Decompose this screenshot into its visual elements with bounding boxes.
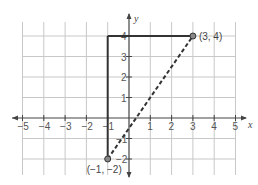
y-axis-down-arrow-icon xyxy=(127,172,132,178)
x-axis-right-arrow-icon xyxy=(241,116,247,121)
coordinate-plane: xy−5−4−3−2−1123454321−1−2 (3, 4)(−1, −2) xyxy=(0,0,258,185)
x-tick-label: −2 xyxy=(81,121,93,132)
x-tick-label: 2 xyxy=(169,121,175,132)
x-tick-label: 1 xyxy=(147,121,153,132)
x-tick-label: 3 xyxy=(190,121,196,132)
point-label: (−1, −2) xyxy=(87,164,122,175)
y-tick-label: −1 xyxy=(116,134,128,145)
point-marker xyxy=(105,156,111,162)
x-axis-label: x xyxy=(247,119,253,130)
x-tick-label: 4 xyxy=(211,121,217,132)
y-tick-label: 3 xyxy=(121,52,127,63)
y-axis-up-arrow-icon xyxy=(127,13,132,19)
y-tick-label: 1 xyxy=(121,93,127,104)
point-label: (3, 4) xyxy=(199,31,222,42)
y-tick-label: 2 xyxy=(121,72,127,83)
y-axis-label: y xyxy=(133,13,139,24)
x-tick-label: −3 xyxy=(60,121,72,132)
x-tick-label: −5 xyxy=(18,121,30,132)
point-marker xyxy=(190,33,196,39)
x-tick-label: 5 xyxy=(233,121,239,132)
x-tick-label: −4 xyxy=(39,121,51,132)
x-axis-left-arrow-icon xyxy=(12,116,18,121)
